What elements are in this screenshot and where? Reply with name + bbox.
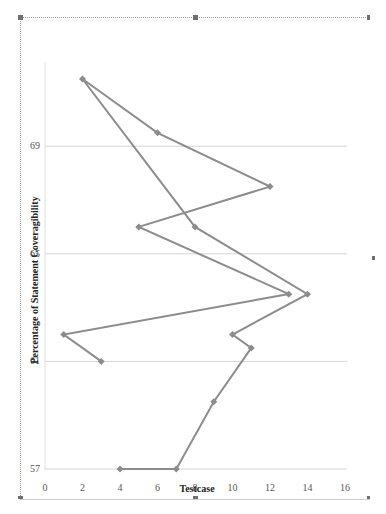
diamond-marker-icon xyxy=(135,223,142,230)
x-axis-title: Testcase xyxy=(179,483,215,494)
x-tick-label: 14 xyxy=(303,482,313,493)
x-tick-label: 16 xyxy=(340,482,350,493)
y-tick-label: 69 xyxy=(30,140,40,151)
x-tick-label: 2 xyxy=(80,482,85,493)
diamond-marker-icon xyxy=(285,291,292,298)
x-tick-label: 10 xyxy=(228,482,238,493)
x-tick-label: 12 xyxy=(265,482,275,493)
x-tick-label: 4 xyxy=(118,482,123,493)
x-tick-label: 0 xyxy=(43,482,48,493)
gridlines xyxy=(45,146,347,469)
diamond-marker-icon xyxy=(117,466,124,473)
line-chart: 57616569 0246810121416 Testcase Percenta… xyxy=(0,0,386,514)
x-tick-label: 6 xyxy=(155,482,160,493)
series-line xyxy=(64,79,308,469)
y-tick-label: 57 xyxy=(30,463,40,474)
data-series xyxy=(60,75,311,472)
diamond-marker-icon xyxy=(267,183,274,190)
y-axis-title: Percentage of Statement Coveragibility xyxy=(29,196,40,363)
